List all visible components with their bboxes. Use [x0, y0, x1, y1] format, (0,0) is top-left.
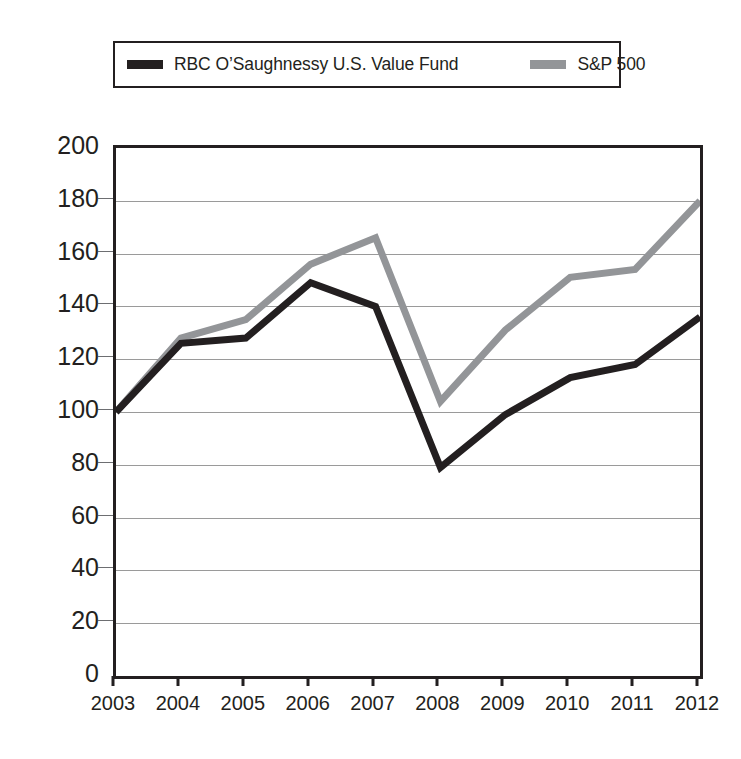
y-axis-tick-mark [98, 251, 113, 252]
y-axis-tick-label: 160 [57, 238, 99, 263]
y-axis-tick-mark [98, 567, 113, 568]
x-axis-tick-label: 2004 [156, 692, 201, 714]
x-axis-tick-label: 2008 [415, 692, 460, 714]
y-axis-tick-label: 180 [57, 185, 99, 210]
y-axis-tick-label: 120 [57, 344, 99, 369]
x-axis-tick-mark [371, 676, 374, 686]
y-axis-labels: 200180160140120100806040200 [0, 145, 99, 673]
legend-swatch-fund [127, 60, 163, 69]
x-axis-tick-label: 2003 [91, 692, 136, 714]
y-axis-tick-label: 140 [57, 291, 99, 316]
y-axis-tick-mark [98, 303, 113, 304]
x-axis-tick-label: 2005 [221, 692, 266, 714]
y-axis-tick-label: 100 [57, 397, 99, 422]
x-axis-tick-mark [696, 676, 699, 686]
legend-label-fund: RBC O’Saughnessy U.S. Value Fund [174, 54, 458, 75]
chart-plot-area [113, 145, 703, 679]
y-axis-tick-label: 80 [71, 449, 99, 474]
legend-label-sp500: S&P 500 [577, 54, 645, 75]
x-axis-tick-label: 2012 [675, 692, 720, 714]
y-axis-tick-label: 40 [71, 555, 99, 580]
x-axis-tick-mark [176, 676, 179, 686]
x-axis-ticks [113, 676, 697, 686]
legend-swatch-sp500 [530, 60, 566, 69]
y-axis-tick-mark [98, 198, 113, 199]
x-axis-tick-label: 2011 [611, 692, 654, 714]
y-axis-tick-mark [98, 356, 113, 357]
y-axis-tick-label: 60 [71, 502, 99, 527]
y-axis-tick-mark [98, 620, 113, 621]
x-axis-tick-label: 2007 [350, 692, 395, 714]
x-axis-tick-mark [631, 676, 634, 686]
x-axis-tick-label: 2006 [285, 692, 330, 714]
y-axis-tick-label: 200 [57, 133, 99, 158]
legend-entry-fund: RBC O’Saughnessy U.S. Value Fund [127, 54, 458, 75]
x-axis-tick-label: 2009 [480, 692, 525, 714]
x-axis-tick-mark [112, 676, 115, 686]
x-axis-tick-mark [306, 676, 309, 686]
y-axis-tick-mark [98, 462, 113, 463]
y-axis-tick-label: 0 [85, 661, 99, 686]
chart-legend: RBC O’Saughnessy U.S. Value Fund S&P 500 [113, 41, 621, 88]
chart-series-layer [116, 148, 700, 676]
x-axis-tick-mark [241, 676, 244, 686]
legend-entries: RBC O’Saughnessy U.S. Value Fund S&P 500 [115, 43, 619, 86]
x-axis-tick-mark [501, 676, 504, 686]
legend-entry-sp500: S&P 500 [530, 54, 645, 75]
x-axis-tick-mark [566, 676, 569, 686]
x-axis-labels: 2003200420052006200720082009201020112012 [113, 692, 697, 722]
x-axis-tick-label: 2010 [545, 692, 590, 714]
y-axis-tick-mark [98, 515, 113, 516]
y-axis-tick-mark [98, 409, 113, 410]
y-axis-ticks [98, 145, 113, 673]
x-axis-tick-mark [436, 676, 439, 686]
y-axis-tick-label: 20 [71, 608, 99, 633]
